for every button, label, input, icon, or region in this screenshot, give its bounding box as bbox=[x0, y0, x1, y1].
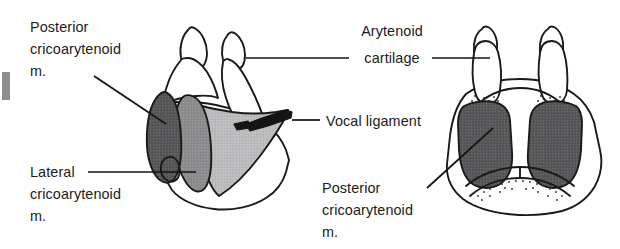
posterior-cricoarytenoid-muscle bbox=[147, 92, 181, 183]
label-posterior-cricoarytenoid-left: Posterior cricoarytenoid m. bbox=[30, 19, 121, 79]
label-line-1: Lateral bbox=[30, 164, 75, 180]
arytenoid-body-left bbox=[473, 41, 501, 104]
right-posterior-view bbox=[447, 27, 601, 215]
label-line-2: cricoarytenoid bbox=[322, 202, 413, 218]
label-line-3: m. bbox=[30, 63, 46, 79]
arytenoid-body-right bbox=[539, 41, 568, 104]
label-arytenoid-cartilage: Arytenoid cartilage bbox=[361, 23, 423, 66]
label-line-1: Vocal ligament bbox=[326, 113, 421, 129]
label-line-2: cricoarytenoid bbox=[30, 41, 121, 57]
label-line-1: Posterior bbox=[322, 180, 381, 196]
left-lateral-view bbox=[147, 27, 292, 209]
anatomy-diagram-svg: Posterior cricoarytenoid m. Lateral cric… bbox=[0, 0, 620, 249]
label-line-1: Posterior bbox=[30, 19, 89, 35]
label-line-1: Arytenoid bbox=[361, 23, 423, 39]
label-lateral-cricoarytenoid: Lateral cricoarytenoid m. bbox=[30, 164, 121, 224]
label-posterior-cricoarytenoid-right: Posterior cricoarytenoid m. bbox=[322, 180, 413, 240]
label-line-2: cartilage bbox=[364, 50, 419, 66]
label-line-3: m. bbox=[30, 208, 46, 224]
scan-edge-artifact bbox=[2, 72, 10, 100]
anatomy-figure: Posterior cricoarytenoid m. Lateral cric… bbox=[0, 0, 620, 249]
label-vocal-ligament: Vocal ligament bbox=[326, 113, 421, 129]
label-line-3: m. bbox=[322, 224, 338, 240]
label-line-2: cricoarytenoid bbox=[30, 186, 121, 202]
